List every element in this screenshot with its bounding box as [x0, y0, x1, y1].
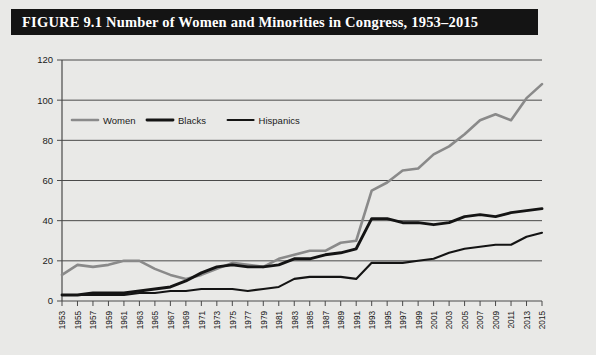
x-axis-label: 2003 — [445, 311, 454, 330]
x-axis-label: 2001 — [430, 311, 439, 330]
x-axis-label: 1991 — [353, 311, 362, 330]
x-axis-label: 2009 — [492, 311, 501, 330]
chart-plot-area: 0204060801001201953195519571959196119631… — [0, 40, 596, 355]
legend-label-women: Women — [103, 115, 136, 126]
y-axis-label: 20 — [42, 255, 53, 266]
figure-container: FIGURE 9.1 Number of Women and Minoritie… — [0, 0, 596, 355]
y-axis-label: 120 — [37, 54, 53, 65]
x-axis-label: 1993 — [368, 311, 377, 330]
x-axis-label: 1965 — [151, 311, 160, 330]
x-axis-label: 2007 — [476, 311, 485, 330]
x-axis-label: 1987 — [322, 311, 331, 330]
x-axis-label: 1973 — [213, 311, 222, 330]
x-axis-label: 1983 — [291, 311, 300, 330]
y-axis-label: 60 — [42, 175, 53, 186]
x-axis-label: 1981 — [275, 311, 284, 330]
x-axis-label: 1955 — [74, 311, 83, 330]
line-chart: 0204060801001201953195519571959196119631… — [0, 40, 596, 355]
legend-label-blacks: Blacks — [178, 115, 206, 126]
y-axis-label: 40 — [42, 215, 53, 226]
x-axis-label: 1971 — [198, 311, 207, 330]
figure-title-bar: FIGURE 9.1 Number of Women and Minoritie… — [11, 9, 538, 35]
x-axis-label: 1967 — [167, 311, 176, 330]
x-axis-label: 2011 — [507, 311, 516, 329]
y-axis-label: 0 — [48, 295, 53, 306]
legend-label-hispanics: Hispanics — [259, 115, 300, 126]
series-line-women — [62, 84, 542, 279]
x-axis-label: 1957 — [89, 311, 98, 330]
x-axis-label: 1979 — [260, 311, 269, 330]
x-axis-label: 1995 — [384, 311, 393, 330]
x-axis-label: 1959 — [105, 311, 114, 330]
series-line-hispanics — [62, 233, 542, 295]
x-axis-label: 1997 — [399, 311, 408, 330]
x-axis-label: 1969 — [182, 311, 191, 330]
y-axis-label: 100 — [37, 95, 53, 106]
page-title: FIGURE 9.1 Number of Women and Minoritie… — [11, 14, 478, 31]
x-axis-label: 2013 — [523, 311, 532, 330]
x-axis-label: 2015 — [538, 311, 547, 330]
x-axis-label: 1963 — [136, 311, 145, 330]
x-axis-label: 1977 — [244, 311, 253, 330]
x-axis-label: 1953 — [58, 311, 67, 330]
x-axis-label: 1999 — [415, 311, 424, 330]
x-axis-label: 1989 — [337, 311, 346, 330]
x-axis-label: 1975 — [229, 311, 238, 330]
x-axis-label: 1985 — [306, 311, 315, 330]
x-axis-label: 2005 — [461, 311, 470, 330]
y-axis-label: 80 — [42, 135, 53, 146]
x-axis-label: 1961 — [120, 311, 129, 330]
